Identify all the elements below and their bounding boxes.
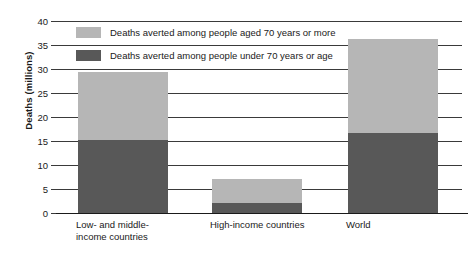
bar-group	[212, 179, 302, 213]
legend-swatch-lower-icon	[76, 50, 101, 61]
x-axis-baseline	[56, 213, 468, 214]
y-axis-tick-label: 5	[43, 184, 48, 195]
x-axis-category-label: Low- and middle-income countries	[76, 219, 196, 242]
bar-segment-70-or-more	[348, 39, 438, 133]
y-axis-tick	[51, 93, 56, 94]
y-axis-tick-label: 0	[43, 208, 48, 219]
y-axis-tick	[51, 189, 56, 190]
x-axis-category-label-line: income countries	[76, 231, 196, 243]
y-axis-tick	[51, 141, 56, 142]
y-axis-title: Deaths (millions)	[23, 11, 34, 171]
y-axis-tick-label: 30	[37, 64, 48, 75]
x-axis-category-label-line: High-income countries	[210, 219, 330, 231]
y-axis-tick-label: 10	[37, 160, 48, 171]
bar-segment-under-70	[212, 203, 302, 213]
y-axis-tick-label: 25	[37, 88, 48, 99]
y-axis-tick	[51, 213, 56, 214]
stacked-bar-chart: Deaths (millions) 0510152025303540 Death…	[0, 0, 474, 255]
y-axis-tick-label: 15	[37, 136, 48, 147]
y-axis-tick-label: 40	[37, 16, 48, 27]
x-axis-category-label-line: Low- and middle-	[76, 219, 196, 231]
legend-item-label: Deaths averted among people under 70 yea…	[110, 50, 333, 61]
legend-swatch-upper-icon	[76, 27, 101, 38]
y-axis-tick	[51, 165, 56, 166]
chart-legend: Deaths averted among people aged 70 year…	[76, 24, 336, 70]
x-axis-category-label-line: World	[346, 219, 466, 231]
bar-segment-under-70	[348, 133, 438, 213]
legend-item: Deaths averted among people under 70 yea…	[76, 47, 336, 63]
y-axis-tick	[51, 21, 56, 22]
bar-segment-70-or-more	[212, 179, 302, 203]
bar-group	[78, 72, 168, 213]
y-axis-tick-label: 35	[37, 40, 48, 51]
bar-group	[348, 39, 438, 213]
x-axis-category-label: High-income countries	[210, 219, 330, 231]
legend-item: Deaths averted among people aged 70 year…	[76, 24, 336, 40]
grid-line	[56, 21, 462, 22]
y-axis-tick-label: 20	[37, 112, 48, 123]
bar-segment-under-70	[78, 140, 168, 213]
legend-item-label: Deaths averted among people aged 70 year…	[110, 27, 336, 38]
y-axis-tick	[51, 45, 56, 46]
y-axis-tick	[51, 117, 56, 118]
x-axis-category-label: World	[346, 219, 466, 231]
y-axis-tick	[51, 69, 56, 70]
bar-segment-70-or-more	[78, 72, 168, 140]
